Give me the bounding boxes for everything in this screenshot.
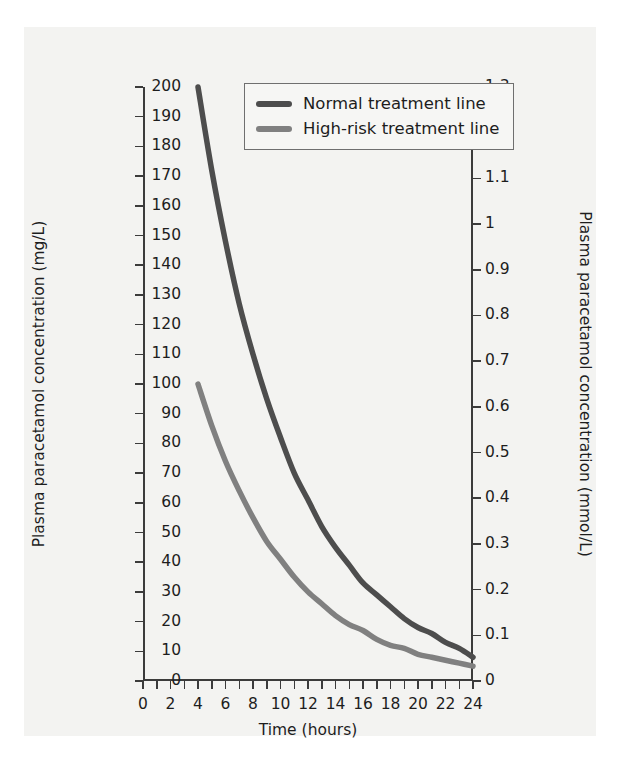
legend-item-normal: Normal treatment line	[256, 91, 499, 116]
x-tick-label: 14	[326, 697, 346, 713]
y-tick-label-right: 0.6	[485, 399, 510, 415]
x-tick	[417, 681, 419, 689]
legend-label-high-risk: High-risk treatment line	[303, 119, 499, 138]
x-tick	[321, 681, 323, 689]
chart-legend: Normal treatment line High-risk treatmen…	[244, 83, 514, 150]
x-axis-tick-labels: 024681012141618202224	[143, 689, 473, 719]
y-tick-right	[473, 589, 481, 591]
x-tick-label: 10	[271, 697, 291, 713]
y-tick-label-right: 0.1	[485, 628, 510, 644]
x-tick	[156, 681, 158, 689]
x-tick-label: 20	[408, 697, 428, 713]
chart-figure: 0102030405060708090100110120130140150160…	[24, 27, 596, 736]
x-tick	[307, 681, 309, 689]
x-tick-label: 4	[193, 697, 203, 713]
x-tick-label: 0	[138, 697, 148, 713]
legend-swatch-normal	[256, 101, 292, 107]
legend-swatch-high-risk	[256, 126, 292, 132]
x-tick	[404, 681, 406, 689]
y-axis-left-title: Plasma paracetamol concentration (mg/L)	[30, 221, 48, 548]
y-tick-right	[473, 178, 481, 180]
data-curves	[143, 87, 473, 681]
series-line-high-risk-treatment	[198, 384, 473, 666]
y-tick-label-right: 0.5	[485, 445, 510, 461]
x-tick-label: 12	[298, 697, 318, 713]
y-tick-right	[473, 223, 481, 225]
y-axis-right-tick-labels: 00.10.20.30.40.50.60.70.80.911.11.21.3	[485, 87, 545, 681]
x-tick-label: 22	[436, 697, 456, 713]
x-tick-label: 2	[166, 697, 176, 713]
x-tick	[211, 681, 213, 689]
x-tick-label: 24	[463, 697, 483, 713]
y-tick-label-right: 0.7	[485, 353, 510, 369]
y-tick-right	[473, 452, 481, 454]
x-tick-label: 16	[353, 697, 373, 713]
y-tick-label-right: 0	[485, 673, 495, 689]
x-tick	[294, 681, 296, 689]
x-tick	[445, 681, 447, 689]
legend-label-normal: Normal treatment line	[303, 94, 486, 113]
y-tick-label-right: 0.2	[485, 582, 510, 598]
y-tick-right	[473, 497, 481, 499]
x-tick	[197, 681, 199, 689]
x-tick-label: 6	[221, 697, 231, 713]
x-tick	[252, 681, 254, 689]
y-tick-right	[473, 360, 481, 362]
x-tick	[472, 681, 474, 689]
y-tick-label-right: 0.3	[485, 536, 510, 552]
y-tick-right	[473, 680, 481, 682]
x-tick	[362, 681, 364, 689]
y-tick-label-right: 1	[485, 216, 495, 232]
x-tick	[376, 681, 378, 689]
x-tick	[349, 681, 351, 689]
x-tick	[390, 681, 392, 689]
x-tick	[142, 681, 144, 689]
x-tick	[335, 681, 337, 689]
y-tick-label-right: 0.8	[485, 308, 510, 324]
y-tick-right	[473, 406, 481, 408]
x-tick	[225, 681, 227, 689]
y-tick-right	[473, 543, 481, 545]
x-tick	[431, 681, 433, 689]
y-tick-right	[473, 269, 481, 271]
x-tick	[184, 681, 186, 689]
legend-item-high-risk: High-risk treatment line	[256, 116, 499, 141]
y-tick-label-right: 1.1	[485, 171, 510, 187]
y-tick-label-right: 0.4	[485, 490, 510, 506]
x-tick	[266, 681, 268, 689]
x-tick-label: 8	[248, 697, 258, 713]
x-tick	[459, 681, 461, 689]
y-tick-right	[473, 635, 481, 637]
y-tick-right	[473, 315, 481, 317]
y-axis-right-title: Plasma paracetamol concentration (mmol/L…	[576, 211, 594, 557]
x-axis-title: Time (hours)	[259, 721, 358, 739]
series-line-normal-treatment	[198, 87, 473, 657]
plot-area: 0102030405060708090100110120130140150160…	[143, 87, 473, 681]
y-tick-label-right: 0.9	[485, 262, 510, 278]
x-tick-label: 18	[381, 697, 401, 713]
x-tick	[280, 681, 282, 689]
x-tick	[239, 681, 241, 689]
